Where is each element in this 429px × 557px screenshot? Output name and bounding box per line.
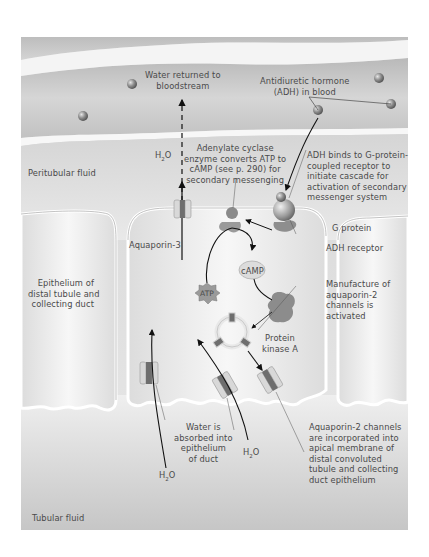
label-manufacture: Manufacture of aquaporin-2 channels is a…	[326, 279, 390, 321]
label-adh-binds: ADH binds to G-protein- coupled receptor…	[307, 150, 408, 203]
label-epithelium: Epithelium of distal tubule and collecti…	[28, 278, 94, 310]
label-h2o-low: H2O	[159, 470, 175, 482]
label-h2o-mid: H2O	[243, 447, 259, 459]
aquaporin-3-channel	[174, 200, 191, 218]
label-water-absorbed: Water is absorbed into epithelium of duc…	[174, 422, 233, 464]
adh-molecule	[127, 79, 137, 89]
aquaporin-2-channel	[140, 362, 158, 384]
label-protein-kinase-a: Protein kinase A	[262, 333, 298, 354]
label-tubular-fluid: Tubular fluid	[32, 513, 84, 524]
label-peritubular-fluid: Peritubular fluid	[28, 168, 96, 179]
label-h2o-top: H2O	[155, 150, 171, 162]
label-aquaporin-3: Aquaporin-3	[129, 240, 181, 251]
adh-molecule	[78, 111, 88, 121]
label-water-returned: Water returned to bloodstream	[145, 70, 221, 91]
label-atp: ATP	[197, 289, 217, 300]
left-epithelial-cell	[21, 211, 116, 410]
label-camp: cAMP	[241, 266, 263, 277]
label-aquaporin-2: Aquaporin-2 channels are incorporated in…	[309, 422, 402, 486]
adh-molecule	[374, 73, 384, 83]
label-adh-in-blood: Antidiuretic hormone (ADH) in blood	[260, 76, 350, 97]
label-g-protein: G protein	[332, 223, 371, 234]
label-adenylate-cyclase: Adenylate cyclase enzyme converts ATP to…	[184, 143, 286, 185]
adh-diagram: Water returned to bloodstream Antidiuret…	[0, 0, 429, 557]
label-adh-receptor: ADH receptor	[326, 243, 383, 254]
